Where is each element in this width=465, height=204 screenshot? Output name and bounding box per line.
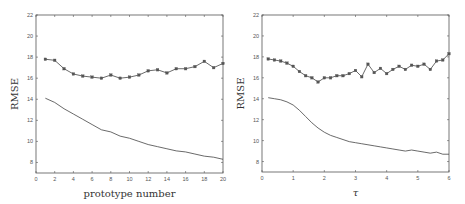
y-tick-label: 14	[253, 96, 259, 102]
data-point-marker	[128, 76, 131, 79]
data-point-marker	[441, 59, 444, 62]
x-tick-label: 0	[34, 176, 37, 182]
data-point-marker	[304, 74, 307, 77]
data-point-marker	[317, 81, 320, 84]
y-tick-label: 8	[256, 159, 259, 165]
y-tick-label: 18	[27, 54, 33, 60]
data-point-marker	[298, 70, 301, 73]
data-point-marker	[44, 58, 47, 61]
chart-prototype-number: 02468101214161820810121416182022prototyp…	[9, 12, 226, 199]
y-tick-label: 16	[27, 75, 33, 81]
x-tick-label: 4	[385, 175, 388, 181]
series-line-upper	[268, 54, 449, 82]
data-point-marker	[392, 68, 395, 71]
data-point-marker	[404, 68, 407, 71]
x-tick-label: 5	[416, 175, 419, 181]
x-tick-label: 0	[260, 175, 263, 181]
x-tick-label: 14	[164, 176, 170, 182]
x-tick-label: 12	[145, 176, 151, 182]
data-point-marker	[119, 77, 122, 80]
data-point-marker	[72, 73, 75, 76]
plot-frame	[262, 15, 449, 172]
data-point-marker	[417, 65, 420, 68]
x-tick-label: 3	[354, 175, 357, 181]
data-point-marker	[342, 74, 345, 77]
x-tick-label: 6	[91, 176, 94, 182]
data-point-marker	[279, 60, 282, 63]
data-point-marker	[410, 64, 413, 67]
data-point-marker	[222, 62, 225, 65]
figure: 02468101214161820810121416182022prototyp…	[0, 0, 465, 204]
x-tick-label: 2	[323, 175, 326, 181]
y-tick-label: 8	[30, 159, 33, 165]
x-tick-label: 6	[447, 175, 450, 181]
data-point-marker	[194, 65, 197, 68]
data-point-marker	[323, 77, 326, 80]
data-point-marker	[175, 67, 178, 70]
y-tick-label: 20	[27, 33, 33, 39]
data-point-marker	[273, 59, 276, 62]
data-point-marker	[379, 67, 382, 70]
plot-frame	[36, 15, 223, 173]
data-point-marker	[429, 68, 432, 71]
data-point-marker	[385, 72, 388, 75]
x-axis-label: prototype number	[84, 188, 176, 199]
data-point-marker	[212, 66, 215, 69]
x-axis-label: τ	[353, 187, 359, 198]
data-point-marker	[147, 70, 150, 73]
y-axis-label: RMSE	[235, 78, 246, 110]
x-tick-label: 2	[53, 176, 56, 182]
x-tick-label: 1	[292, 175, 295, 181]
y-axis-label: RMSE	[9, 78, 20, 110]
data-point-marker	[184, 67, 187, 70]
y-tick-label: 10	[253, 138, 259, 144]
data-point-marker	[329, 77, 332, 80]
y-tick-label: 16	[253, 75, 259, 81]
data-point-marker	[63, 67, 66, 70]
y-tick-label: 18	[253, 54, 259, 60]
data-point-marker	[292, 65, 295, 68]
y-tick-label: 14	[27, 96, 33, 102]
data-point-marker	[286, 62, 289, 65]
data-point-marker	[336, 74, 339, 77]
data-point-marker	[367, 63, 370, 66]
data-point-marker	[203, 60, 206, 63]
y-tick-label: 10	[27, 138, 33, 144]
data-point-marker	[53, 59, 56, 62]
data-point-marker	[267, 58, 270, 61]
data-point-marker	[311, 77, 314, 80]
series-line-lower	[268, 98, 449, 155]
chart-tau: 0123456810121416182022τRMSE	[235, 12, 451, 198]
data-point-marker	[373, 71, 376, 74]
data-point-marker	[435, 60, 438, 63]
data-point-marker	[166, 72, 169, 75]
data-point-marker	[100, 77, 103, 80]
data-point-marker	[91, 76, 94, 79]
data-point-marker	[354, 69, 357, 72]
data-point-marker	[360, 75, 363, 78]
data-point-marker	[138, 74, 141, 77]
y-tick-label: 22	[27, 12, 33, 18]
data-point-marker	[81, 75, 84, 78]
y-tick-label: 12	[253, 117, 259, 123]
y-tick-label: 22	[253, 12, 259, 18]
data-point-marker	[110, 74, 113, 77]
y-tick-label: 12	[27, 117, 33, 123]
data-point-marker	[348, 72, 351, 75]
x-tick-label: 10	[126, 176, 132, 182]
y-tick-label: 20	[253, 33, 259, 39]
x-tick-label: 20	[220, 176, 226, 182]
data-point-marker	[448, 52, 451, 55]
x-tick-label: 16	[183, 176, 189, 182]
data-point-marker	[423, 63, 426, 66]
x-tick-label: 8	[109, 176, 112, 182]
x-tick-label: 18	[201, 176, 207, 182]
data-point-marker	[398, 65, 401, 68]
series-line-lower	[45, 98, 223, 159]
data-point-marker	[156, 68, 159, 71]
x-tick-label: 4	[72, 176, 75, 182]
